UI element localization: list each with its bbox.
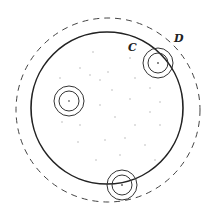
scatter-dots: [59, 51, 160, 160]
diagram-canvas: C D: [0, 0, 211, 218]
circle-c-solid: [31, 32, 183, 184]
label-c: C: [128, 41, 137, 54]
label-d: D: [174, 32, 184, 45]
circle-d-dashed: [16, 18, 200, 202]
